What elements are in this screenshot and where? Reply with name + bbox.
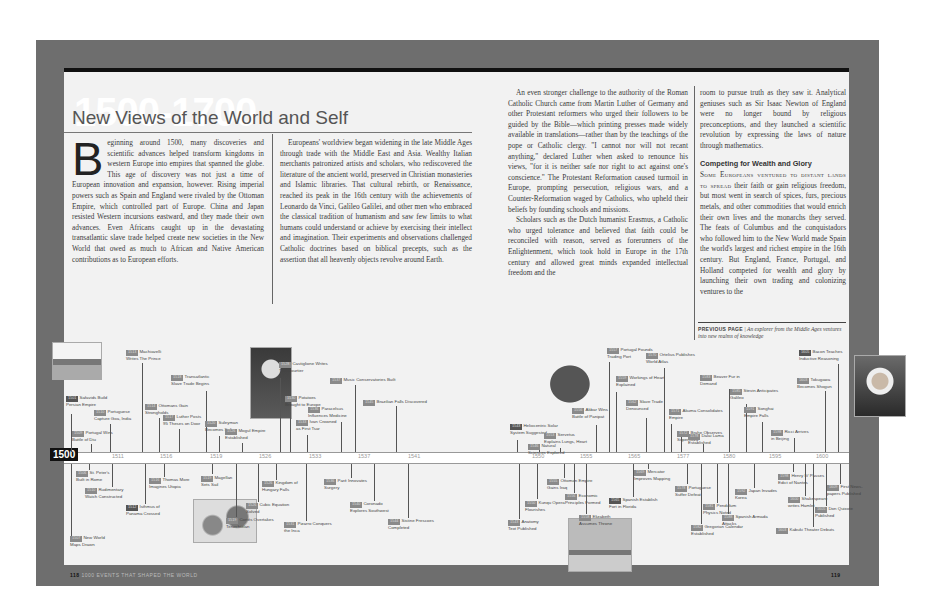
- timeline-event: 1591SonghaiEmpire Falls: [744, 406, 774, 418]
- timeline-event: 1526Mogul EmpireEstablished: [225, 428, 266, 440]
- tick-label: 1533: [309, 453, 321, 459]
- caption-label: PREVIOUS PAGE: [698, 326, 743, 332]
- mosque-photo: [52, 342, 102, 380]
- tick-label: 1600: [816, 453, 828, 459]
- timeline-event: 1506St. Peter'sBuilt in Rome: [76, 470, 110, 482]
- right-folio: 119: [831, 572, 841, 578]
- tick-label: 1511: [112, 453, 124, 459]
- timeline-event: 1578Dalai LamaEstablished: [688, 433, 724, 445]
- column-2: Europeans' worldview began widening in t…: [280, 138, 472, 265]
- section-subhead: Competing for Wealth and Glory: [700, 159, 846, 170]
- timeline-event: 1519MagellanSets Sail: [201, 475, 232, 487]
- tick-label: 1526: [259, 453, 271, 459]
- suleyman-portrait: [250, 347, 292, 419]
- column-4-para-2: Some Europeans ventured to distant lands…: [700, 170, 846, 297]
- book-spread: 1500-1700 New Views of the World and Sel…: [36, 40, 879, 586]
- timeline-event: 1517Luther Posts95 Theses on Door: [163, 414, 201, 426]
- timeline-event: 1558ElizabethAssumes Throne: [579, 514, 612, 526]
- tick-label: 1516: [160, 453, 172, 459]
- timeline-event: 1510PortugueseCapture Goa, India: [94, 409, 131, 421]
- timeline-event: 1510RudimentaryWatch Constructed: [85, 487, 123, 499]
- timeline-event: 1545Brazilian Falls Discovered: [363, 399, 427, 406]
- timeline-event: 1553ServetusExplains Lungs, Heart: [544, 432, 587, 444]
- caption-rule: [698, 322, 846, 323]
- tick-label: 1565: [628, 453, 640, 459]
- timeline-event: 1570Ortelius PublishesWorld Atlas: [646, 352, 695, 364]
- timeline-event: 1512Isthmus ofPanama Crossed: [126, 504, 160, 516]
- timeline-event: 1533Ivan Crownedas First Tsar: [296, 419, 337, 431]
- tick-label: 1580: [723, 453, 735, 459]
- photo-caption: PREVIOUS PAGE | An explorer from the Mid…: [698, 326, 846, 340]
- timeline-event: 1609First News-papers Published: [827, 484, 863, 496]
- column-4: room to pursue truth as they saw it. Ana…: [700, 88, 846, 297]
- tick-label: 1577: [677, 453, 689, 459]
- timeline-event: 1509Portugal WinsBattle of Diu: [72, 430, 113, 442]
- timeline-event: 1544Sistine FrescoesCompleted: [388, 518, 434, 530]
- tick-label: 1541: [408, 453, 420, 459]
- timeline-event: 1536Paré InnovatesSurgery: [324, 478, 367, 490]
- timeline-event: 1578PortugueseSuffer Defeat: [675, 485, 711, 497]
- timeline-event: 1537Music Conservatories Built: [330, 377, 395, 384]
- timeline-event: 1598Ricci Arrivesin Beijing: [771, 429, 809, 441]
- timeline-event: 1550Kunqu OperaFlourishes: [525, 500, 565, 512]
- timeline-event: 1559Workings of HeartExplained: [616, 375, 665, 387]
- timeline-event: 1543AnatomyText Published: [508, 519, 539, 531]
- timeline-event: 1569MercatorImproves Mapping: [634, 469, 670, 481]
- timeline-event: 1605Don QuixotePublished: [815, 506, 853, 518]
- timeline-event: 1507New WorldMaps Drawn: [70, 535, 105, 547]
- tick-label: 1537: [358, 453, 370, 459]
- timeline-event: 1583Beaver Fur inDemand: [700, 374, 740, 386]
- left-folio: 118 1000 EVENTS THAT SHAPED THE WORLD: [70, 572, 198, 578]
- timeline-start-year: 1500: [50, 448, 78, 461]
- timeline-event: 1603Kabuki Theater Debuts: [776, 527, 834, 534]
- column-3-para-2: Scholars such as the Dutch humanist Eras…: [508, 215, 688, 279]
- tick-label: 1519: [210, 453, 222, 459]
- column-1: B eginning around 1500, many discoveries…: [72, 138, 264, 265]
- timeline-event: 1513MachiavelliWrites The Prince: [126, 349, 161, 361]
- timeline-event: 1518TransatlanticSlave Trade Begins: [171, 374, 209, 386]
- timeline-event: 1562Slave TradeDenounced: [626, 399, 663, 411]
- timeline-event: 1540CoronadoExplores Southwest: [350, 501, 389, 513]
- column-divider: [694, 86, 695, 340]
- timeline-event: 1565Spanish EstablishFort in Florida: [609, 497, 657, 509]
- timeline-event: 1501Safavids BuildPersian Empire: [66, 395, 107, 407]
- column-3: An even stronger challenge to the author…: [508, 88, 688, 279]
- timeline-event: 1592Japan InvadesKorea: [735, 488, 777, 500]
- timeline-event: 1571Akuma ConsolidatesEmpire: [669, 408, 723, 420]
- page: 1500-1700 New Views of the World and Sel…: [64, 68, 849, 565]
- timeline-event: 1519Cortés OvertakesTenochtitlan: [226, 517, 274, 529]
- page-title: New Views of the World and Self: [72, 108, 348, 127]
- column-2-text: Europeans' worldview began widening in t…: [280, 138, 472, 264]
- timeline-event: 1546NaturalSciences Explored: [528, 443, 564, 455]
- timeline-event: 1526Kingdom ofHungary Falls: [262, 480, 298, 492]
- timeline-event: 1556EconomicPrinciples Formed: [565, 493, 600, 505]
- timeline-event: 1588Spanish ArmadaAttacks: [722, 514, 768, 526]
- francis-bacon-portrait: [854, 355, 906, 417]
- column-divider: [272, 134, 273, 304]
- timeline-event: 1536ParacelsusInfluences Medicine: [308, 406, 347, 418]
- drop-cap: B: [72, 139, 103, 179]
- timeline-event: 1603TokugawaBecomes Shogun: [797, 377, 832, 389]
- timeline-event: 1516Thomas MoreImagines Utopia: [149, 477, 190, 489]
- timeline-event: 1605Bacon TeachesInductive Reasoning: [799, 349, 842, 361]
- timeline-event: 1585Stevin AnticipatesGalileo: [730, 388, 778, 400]
- column-3-para-1: An even stronger challenge to the author…: [508, 88, 688, 215]
- column-4-para-1: room to pursue truth as they saw it. Ana…: [700, 88, 846, 152]
- timeline-event: 1531Pizarro Conquersthe Inca: [284, 521, 332, 533]
- tick-label: 1555: [580, 453, 592, 459]
- timeline-event: 1526Cubic EquationSolved: [246, 502, 289, 514]
- tick-label: 1595: [769, 453, 781, 459]
- timeline-event: 1598Henry IV PassesEdict of Nantes: [778, 473, 824, 485]
- title-rule: [64, 132, 472, 133]
- timeline-event: 1528Castiglione WritesThe Courtier: [279, 361, 328, 373]
- timeline-event: 1556Akbar WinsBattle of Panipat: [572, 407, 608, 419]
